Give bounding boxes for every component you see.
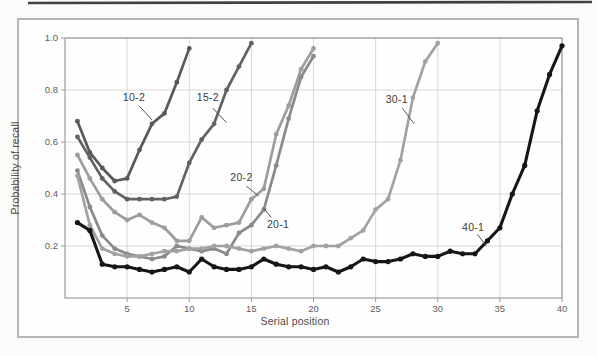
series-20-2-point bbox=[311, 46, 316, 51]
series-40-1-point bbox=[87, 228, 92, 233]
series-40-1-point bbox=[75, 220, 80, 225]
series-20-1-point bbox=[75, 168, 80, 173]
series-40-1-point bbox=[100, 262, 105, 267]
series-10-2-point bbox=[137, 147, 142, 152]
x-tick-label: 5 bbox=[124, 303, 129, 314]
annotation-label-30-1: 30-1 bbox=[386, 93, 408, 105]
series-15-2-point bbox=[187, 160, 192, 165]
series-40-1-point bbox=[274, 262, 279, 267]
series-20-2-point bbox=[261, 186, 266, 191]
series-30-1-point bbox=[174, 249, 179, 254]
series-30-1-point bbox=[324, 244, 329, 249]
series-20-2-point bbox=[125, 218, 130, 223]
series-30-1-point bbox=[112, 251, 117, 256]
series-15-2-point bbox=[224, 88, 229, 93]
series-20-1-point bbox=[162, 254, 167, 259]
series-40-1-point bbox=[559, 43, 564, 48]
serial-position-figure: 5101520253035400.20.40.60.81.0 10-215-22… bbox=[0, 0, 598, 356]
series-40-1-point bbox=[336, 269, 341, 274]
series-40-1-point bbox=[199, 256, 204, 261]
series-40-1-point bbox=[460, 251, 465, 256]
x-axis-title: Serial position bbox=[261, 315, 330, 327]
annotation-label-20-2: 20-2 bbox=[230, 171, 252, 183]
series-20-2-point bbox=[150, 220, 155, 225]
series-30-1-point bbox=[137, 254, 142, 259]
series-20-1-point bbox=[87, 205, 92, 210]
series-40-1-point bbox=[286, 264, 291, 269]
series-20-1-point bbox=[112, 246, 117, 251]
series-20-1-point bbox=[311, 54, 316, 59]
series-20-2-point bbox=[87, 176, 92, 181]
series-20-2-point bbox=[199, 215, 204, 220]
annotation-label-10-2: 10-2 bbox=[123, 91, 145, 103]
series-20-2-point bbox=[237, 220, 242, 225]
series-30-1-point bbox=[361, 228, 366, 233]
series-20-2-point bbox=[212, 225, 217, 230]
series-20-2-point bbox=[162, 225, 167, 230]
series-30-1-point bbox=[249, 249, 254, 254]
series-40-1-point bbox=[112, 264, 117, 269]
series-20-2-point bbox=[100, 197, 105, 202]
series-15-2-point bbox=[112, 189, 117, 194]
series-30-1-point bbox=[75, 173, 80, 178]
series-40-1-point bbox=[261, 256, 266, 261]
x-tick-label: 25 bbox=[370, 303, 381, 314]
series-40-1-point bbox=[212, 264, 217, 269]
series-20-2-point bbox=[137, 212, 142, 217]
series-40-1-point bbox=[423, 254, 428, 259]
series-15-2-point bbox=[87, 155, 92, 160]
series-20-2-point bbox=[249, 197, 254, 202]
series-40-1-point bbox=[149, 269, 154, 274]
series-30-1-point bbox=[125, 254, 130, 259]
series-40-1-point bbox=[547, 72, 552, 77]
series-30-1-point bbox=[199, 246, 204, 251]
annotation-label-40-1: 40-1 bbox=[462, 221, 484, 233]
series-40-1-point bbox=[373, 259, 378, 264]
x-tick-label: 15 bbox=[246, 303, 257, 314]
series-40-1-point bbox=[125, 264, 130, 269]
series-10-2-point bbox=[187, 46, 192, 51]
series-30-1-point bbox=[435, 41, 440, 46]
series-20-1-point bbox=[286, 116, 291, 121]
y-tick-label: 0.8 bbox=[45, 84, 58, 95]
series-20-1-point bbox=[150, 257, 155, 262]
series-15-2-point bbox=[150, 197, 155, 202]
series-30-1-point bbox=[373, 207, 378, 212]
series-20-1-point bbox=[249, 223, 254, 228]
series-30-1-point bbox=[162, 249, 167, 254]
series-20-1-point bbox=[224, 251, 229, 256]
series-20-2-point bbox=[187, 238, 192, 243]
series-20-1-point bbox=[299, 75, 304, 80]
series-10-2-point bbox=[162, 111, 167, 116]
series-40-1-point bbox=[535, 108, 540, 113]
series-20-2-point bbox=[75, 153, 80, 158]
series-30-1-point bbox=[224, 244, 229, 249]
x-tick-label: 35 bbox=[495, 303, 506, 314]
x-tick-label: 40 bbox=[557, 303, 568, 314]
series-20-1-point bbox=[274, 163, 279, 168]
series-40-1-point bbox=[361, 256, 366, 261]
series-40-1-point bbox=[174, 264, 179, 269]
series-30-1-point bbox=[100, 246, 105, 251]
series-40-1-point bbox=[410, 251, 415, 256]
series-30-1-point bbox=[274, 244, 279, 249]
series-30-1-point bbox=[286, 246, 291, 251]
series-15-2-point bbox=[100, 176, 105, 181]
series-20-2-point bbox=[299, 67, 304, 72]
y-tick-label: 1.0 bbox=[45, 32, 58, 43]
series-30-1-point bbox=[150, 251, 155, 256]
series-40-1-point bbox=[385, 259, 390, 264]
series-40-1-point bbox=[224, 267, 229, 272]
series-15-2-point bbox=[212, 121, 217, 126]
series-40-1-point bbox=[348, 264, 353, 269]
series-10-2-point bbox=[112, 179, 117, 184]
series-15-2-point bbox=[75, 134, 80, 139]
series-40-1-point bbox=[298, 264, 303, 269]
y-tick-label: 0.2 bbox=[45, 240, 58, 251]
series-40-1-point bbox=[398, 256, 403, 261]
series-40-1-point bbox=[510, 191, 515, 196]
series-40-1-point bbox=[448, 249, 453, 254]
annotation-label-20-1: 20-1 bbox=[267, 218, 289, 230]
y-axis-title: Probability of recall bbox=[9, 122, 21, 215]
series-20-2-point bbox=[112, 210, 117, 215]
